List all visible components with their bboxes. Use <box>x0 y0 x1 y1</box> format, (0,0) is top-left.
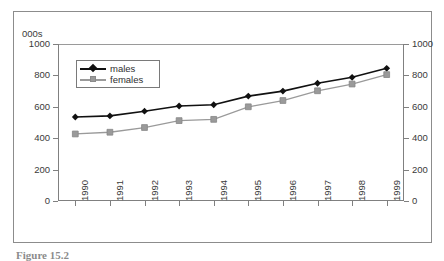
data-point-females-1999 <box>384 72 390 78</box>
y-tick-right-800 <box>404 75 409 76</box>
data-point-females-1996 <box>280 98 286 104</box>
x-tick-1991 <box>110 201 111 206</box>
y-tick-right-1000 <box>404 44 409 45</box>
y-tick-right-0 <box>404 201 409 202</box>
x-tick-1993 <box>179 201 180 206</box>
y-tick-right-200 <box>404 170 409 171</box>
y-tick-right-600 <box>404 107 409 108</box>
figure-frame: 000s 10008006004002000 10008006004002000… <box>13 11 432 243</box>
x-tick-1999 <box>387 201 388 206</box>
legend-label-males: males <box>106 63 135 74</box>
data-point-males-1993 <box>176 103 183 110</box>
x-tick-1996 <box>283 201 284 206</box>
y-label-right-800: 800 <box>412 70 428 80</box>
y-label-right-200: 200 <box>412 165 428 175</box>
y-label-right-400: 400 <box>412 133 428 143</box>
data-point-males-1996 <box>280 88 287 95</box>
x-tick-1992 <box>145 201 146 206</box>
y-label-left-200: 200 <box>34 165 50 175</box>
y-label-right-1000: 1000 <box>412 39 433 49</box>
y-label-left-400: 400 <box>34 133 50 143</box>
data-point-females-1995 <box>245 104 251 110</box>
data-point-males-1999 <box>383 65 390 72</box>
y-label-left-800: 800 <box>34 70 50 80</box>
data-point-males-1998 <box>349 74 356 81</box>
legend-label-females: females <box>106 74 143 85</box>
x-tick-1990 <box>75 201 76 206</box>
square-marker-icon <box>90 76 96 82</box>
x-tick-1995 <box>248 201 249 206</box>
figure-caption: Figure 15.2 <box>16 249 69 261</box>
legend: males females <box>76 60 160 88</box>
data-point-males-1991 <box>107 113 114 120</box>
y-label-left-600: 600 <box>34 102 50 112</box>
data-point-females-1990 <box>72 131 78 137</box>
legend-swatch-males <box>80 63 106 74</box>
y-tick-left-0 <box>53 201 58 202</box>
y-label-right-600: 600 <box>412 102 428 112</box>
data-point-females-1994 <box>211 116 217 122</box>
data-point-females-1993 <box>176 118 182 124</box>
data-point-males-1994 <box>210 101 217 108</box>
x-tick-1994 <box>214 201 215 206</box>
data-point-females-1991 <box>107 129 113 135</box>
data-point-males-1995 <box>245 93 252 100</box>
y-tick-right-400 <box>404 138 409 139</box>
data-point-males-1997 <box>314 80 321 87</box>
data-point-females-1997 <box>315 88 321 94</box>
y-label-left-0: 0 <box>45 196 50 206</box>
data-point-females-1998 <box>349 81 355 87</box>
diamond-marker-icon <box>89 64 97 72</box>
legend-entry-males: males <box>80 63 156 74</box>
legend-entry-females: females <box>80 74 156 85</box>
y-label-left-1000: 1000 <box>29 39 50 49</box>
x-tick-1998 <box>352 201 353 206</box>
data-point-females-1992 <box>142 125 148 131</box>
legend-swatch-females <box>80 74 106 85</box>
y-label-right-0: 0 <box>412 196 417 206</box>
data-point-males-1990 <box>72 114 79 121</box>
data-point-males-1992 <box>141 108 148 115</box>
figure-number: Figure 15.2 <box>16 249 69 261</box>
x-tick-1997 <box>318 201 319 206</box>
